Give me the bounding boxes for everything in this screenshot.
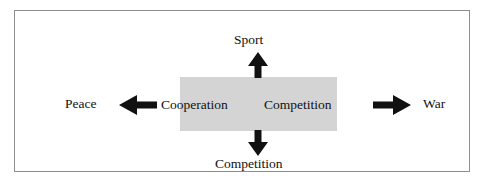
label-competition-center: Competition	[264, 98, 332, 112]
diagram-canvas: Sport Competition Peace War Cooperation …	[0, 0, 480, 184]
label-competition-bottom: Competition	[215, 157, 283, 171]
arrow-right-icon	[373, 95, 411, 115]
arrow-up-icon	[247, 52, 269, 78]
label-peace: Peace	[65, 97, 96, 111]
label-sport: Sport	[234, 33, 263, 47]
diagram-frame: Sport Competition Peace War Cooperation …	[14, 10, 470, 172]
arrow-left-icon	[119, 95, 157, 115]
label-war: War	[423, 97, 445, 111]
arrow-down-icon	[247, 130, 269, 156]
label-cooperation: Cooperation	[161, 98, 228, 112]
